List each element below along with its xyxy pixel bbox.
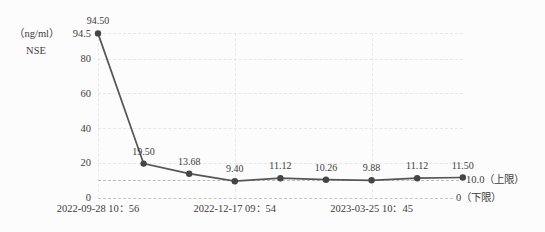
data-point	[140, 160, 146, 166]
data-point-label: 9.88	[350, 162, 394, 174]
data-point-label: 11.12	[258, 160, 302, 172]
data-point-label: 19.50	[122, 146, 166, 158]
data-point-label: 13.68	[167, 156, 211, 168]
data-point	[232, 178, 238, 184]
data-point-label: 94.50	[76, 15, 120, 27]
data-point	[368, 177, 374, 183]
nse-trend-chart: （ng/ml） NSE 94.58060402002022-09-28 10：5…	[0, 0, 545, 232]
data-point	[277, 175, 283, 181]
data-point	[414, 175, 420, 181]
data-point-label: 11.50	[441, 160, 485, 172]
data-point	[186, 171, 192, 177]
trend-line	[98, 33, 463, 181]
data-point	[95, 30, 101, 36]
lower-limit-label: 0（下限）	[456, 191, 501, 205]
data-point	[323, 177, 329, 183]
data-point-label: 9.40	[213, 163, 257, 175]
data-point-label: 10.26	[304, 162, 348, 174]
upper-limit-label: 10.0（上限）	[466, 173, 524, 187]
data-point-label: 11.12	[395, 160, 439, 172]
